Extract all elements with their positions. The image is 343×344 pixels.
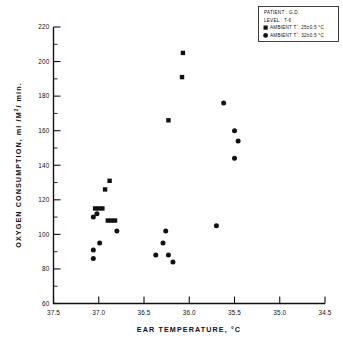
data-point-square: [166, 118, 170, 122]
data-point-circle: [232, 128, 237, 133]
y-axis-title-main: OXYGEN CONSUMPTION, ml /M: [14, 111, 23, 248]
data-point-circle: [97, 241, 102, 246]
x-tick-label: 36.0: [183, 309, 196, 316]
data-point-circle: [91, 215, 96, 220]
legend: PATIENT : G.D. LEVEL : T-6 AMBIENT T°: 2…: [259, 7, 339, 42]
data-point-circle: [114, 228, 119, 233]
data-point-circle: [94, 211, 99, 216]
y-tick-label: 180: [38, 92, 50, 99]
scatter-chart: 6080100120140160180200220 37.537.036.536…: [0, 0, 343, 344]
legend-circle-marker: [263, 33, 268, 38]
data-point-circle: [91, 256, 96, 261]
data-point-circle: [153, 253, 158, 258]
y-tick-label: 160: [38, 127, 50, 134]
legend-level-line: LEVEL : T-6: [264, 18, 291, 23]
y-tick-label: 220: [38, 23, 50, 30]
x-tick-label: 36.5: [137, 309, 150, 316]
x-tick-label: 35.5: [228, 309, 241, 316]
y-tick-label: 120: [38, 196, 50, 203]
x-axis-title: EAR TEMPERATURE, °C: [137, 325, 241, 334]
series-ambient-25: [93, 51, 185, 223]
data-point-square: [180, 75, 184, 79]
legend-square-marker: [264, 26, 268, 30]
data-point-circle: [163, 228, 168, 233]
data-point-square: [100, 206, 104, 210]
y-tick-label: 60: [42, 300, 50, 307]
data-point-circle: [236, 139, 241, 144]
data-point-circle: [161, 241, 166, 246]
data-point-square: [113, 218, 117, 222]
x-tick-label: 35.0: [273, 309, 286, 316]
data-point-circle: [232, 156, 237, 161]
y-axis-title-tail: / min.: [14, 82, 23, 107]
legend-circle-prefix: AMBIENT T: [270, 33, 297, 38]
y-axis-ticks: [54, 27, 61, 304]
data-point-circle: [214, 223, 219, 228]
data-point-square: [181, 51, 185, 55]
data-point-circle: [91, 247, 96, 252]
x-tick-label: 37.0: [92, 309, 105, 316]
data-point-circle: [166, 253, 171, 258]
data-point-circle: [221, 101, 226, 106]
data-point-square: [107, 179, 111, 183]
x-axis-ticks: [54, 297, 326, 304]
legend-square-value: : 25±0.5 °C: [298, 25, 324, 30]
axis-lines: [54, 27, 326, 304]
y-tick-label: 200: [38, 58, 50, 65]
x-axis-tick-labels: 37.537.036.536.035.535.034.5: [47, 309, 332, 316]
y-tick-label: 80: [42, 265, 50, 272]
chart-svg: 6080100120140160180200220 37.537.036.536…: [0, 0, 343, 344]
legend-circle-value: : 32±0.5 °C: [298, 33, 324, 38]
y-axis-title: OXYGEN CONSUMPTION, ml /M2/ min.: [14, 82, 23, 248]
legend-square-prefix: AMBIENT T: [270, 25, 297, 30]
svg-text:OXYGEN CONSUMPTION, ml /M2/ m: OXYGEN CONSUMPTION, ml /M2/ min.: [14, 82, 23, 248]
y-axis-tick-labels: 6080100120140160180200220: [38, 23, 50, 307]
series-ambient-32: [91, 101, 241, 265]
y-tick-label: 100: [38, 231, 50, 238]
x-tick-label: 34.5: [318, 309, 331, 316]
data-point-square: [103, 187, 107, 191]
data-point-circle: [170, 260, 175, 265]
y-tick-label: 140: [38, 162, 50, 169]
legend-patient-line: PATIENT : G.D.: [264, 10, 299, 15]
x-tick-label: 37.5: [47, 309, 60, 316]
